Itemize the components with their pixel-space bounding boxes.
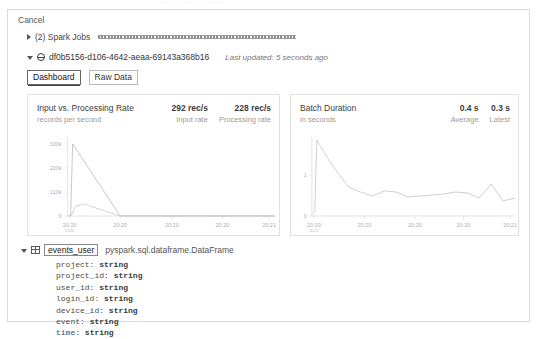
y-tick-label: 1 — [304, 172, 307, 178]
field-name: user_id: — [56, 283, 94, 292]
x-tick-label: 20:20 — [457, 222, 471, 228]
triangle-down-icon[interactable] — [21, 249, 27, 253]
field-type: string — [90, 317, 119, 326]
clipped-text: .... ... ......... .... ......... — [160, 0, 224, 4]
field-type: string — [85, 328, 114, 337]
schema-field-list: project: string project_id: string user_… — [21, 259, 234, 339]
chart-subtitle: in seconds — [300, 115, 356, 124]
stream-query-panel: Cancel (2) Spark Jobs df0b5156-d106-4642… — [7, 9, 530, 322]
chart-card-batch-duration: Batch Duration in seconds 0.4 s Average … — [290, 94, 519, 236]
field-type: string — [99, 260, 128, 269]
stat-value: 0.4 s — [451, 103, 479, 113]
spark-jobs-label: (2) Spark Jobs — [35, 32, 90, 42]
duration-plot[interactable]: 1 0 20:20 2022 20:20 20:20 20:20 20:21 — [291, 135, 518, 235]
field-name: project: — [56, 260, 94, 269]
stat-input-rate: 292 rec/s Input rate — [171, 103, 207, 124]
x-tick-sublabel: 2022 — [309, 228, 319, 233]
chart-stats: 0.4 s Average 0.3 s Latest — [451, 103, 510, 124]
schema-field: project_id: string — [56, 270, 234, 281]
chart-header: Batch Duration in seconds — [300, 103, 356, 124]
stat-value: 228 rec/s — [219, 103, 271, 113]
field-name: project_id: — [56, 271, 109, 280]
x-tick-label: 20:20 — [165, 222, 179, 228]
chart-card-input-vs-processing-rate: Input vs. Processing Rate records per se… — [27, 94, 280, 236]
y-tick-label: 0 — [304, 213, 307, 219]
rate-plot[interactable]: 330k 220k 110k 0 — [28, 135, 279, 235]
stop-circle-icon[interactable] — [37, 53, 45, 61]
stat-processing-rate: 228 rec/s Processing rate — [219, 103, 271, 124]
y-tick-label: 330k — [50, 141, 62, 147]
triangle-down-icon[interactable] — [27, 56, 33, 60]
stat-value: 292 rec/s — [171, 103, 207, 113]
schema-field: event: string — [56, 316, 234, 327]
query-id: df0b5156-d106-4642-aeaa-69143a368b16 — [49, 52, 209, 62]
dataframe-name[interactable]: events_user — [44, 244, 98, 256]
last-updated-text: Last updated: 5 seconds ago — [225, 53, 328, 62]
field-type: string — [109, 306, 138, 315]
cancel-link[interactable]: Cancel — [18, 15, 44, 25]
chart-stats: 292 rec/s Input rate 228 rec/s Processin… — [171, 103, 271, 124]
x-tick-label: 20:20 — [216, 222, 230, 228]
field-name: event: — [56, 317, 85, 326]
series-line-processing-rate — [69, 204, 275, 216]
x-tick-label: 20:20 — [113, 222, 127, 228]
dataframe-type: pyspark.sql.dataframe.DataFrame — [105, 245, 234, 255]
schema-header-row[interactable]: events_user pyspark.sql.dataframe.DataFr… — [21, 244, 234, 256]
tab-bar: Dashboard Raw Data — [27, 70, 138, 85]
x-tick-label: 20:20 — [408, 222, 422, 228]
jobs-progress-bar — [98, 35, 296, 39]
dataframe-schema-tree: events_user pyspark.sql.dataframe.DataFr… — [21, 244, 234, 339]
y-tick-label: 220k — [50, 165, 62, 171]
x-tick-label: 20:20 — [357, 222, 371, 228]
chart-subtitle: records per second — [37, 115, 134, 124]
series-line-batch-duration — [313, 140, 515, 214]
chart-header: Input vs. Processing Rate records per se… — [37, 103, 134, 124]
spark-jobs-row[interactable]: (2) Spark Jobs — [27, 31, 296, 43]
stat-latest: 0.3 s Latest — [490, 103, 510, 124]
tab-raw-data[interactable]: Raw Data — [89, 70, 138, 85]
x-tick-label: 20:21 — [262, 222, 276, 228]
chart-title: Input vs. Processing Rate — [37, 103, 134, 113]
schema-field: time: string — [56, 327, 234, 338]
series-line-input-rate — [69, 144, 275, 216]
field-type: string — [99, 283, 128, 292]
stat-label: Latest — [490, 115, 510, 124]
query-header-row[interactable]: df0b5156-d106-4642-aeaa-69143a368b16 Las… — [27, 51, 328, 63]
field-name: device_id: — [56, 306, 104, 315]
schema-field: login_id: string — [56, 293, 234, 304]
table-icon — [31, 246, 40, 254]
clipped-top-row: .... ... ......... .... ......... — [0, 0, 537, 9]
y-tick-label: 110k — [50, 189, 62, 195]
stat-value: 0.3 s — [490, 103, 510, 113]
x-tick-label: 20:21 — [503, 222, 517, 228]
field-type: string — [104, 294, 133, 303]
schema-field: user_id: string — [56, 282, 234, 293]
stat-label: Processing rate — [219, 115, 271, 124]
tab-dashboard[interactable]: Dashboard — [27, 70, 81, 85]
field-name: time: — [56, 328, 80, 337]
field-name: login_id: — [56, 294, 99, 303]
schema-field: project: string — [56, 259, 234, 270]
chart-title: Batch Duration — [300, 103, 356, 113]
stat-average: 0.4 s Average — [451, 103, 479, 124]
x-tick-sublabel: 2022 — [65, 228, 75, 233]
schema-field: device_id: string — [56, 305, 234, 316]
field-type: string — [114, 271, 143, 280]
triangle-right-icon[interactable] — [27, 34, 31, 40]
stat-label: Average — [451, 115, 479, 124]
stat-label: Input rate — [171, 115, 207, 124]
y-tick-label: 0 — [59, 213, 62, 219]
